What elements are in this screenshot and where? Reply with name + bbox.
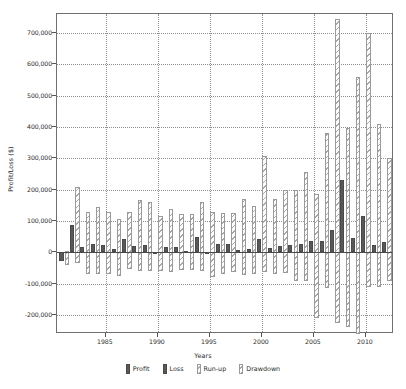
bar-profit[interactable] bbox=[382, 242, 386, 252]
legend-swatch-icon bbox=[197, 364, 201, 374]
y-tick-label: 700,000 bbox=[27, 28, 52, 35]
bar-runup-drawdown[interactable] bbox=[169, 209, 173, 272]
y-axis-title: Profit/Loss ($) bbox=[7, 130, 15, 208]
bar-profit[interactable] bbox=[216, 244, 220, 252]
x-tick-label: 2000 bbox=[253, 338, 269, 345]
legend-label: Profit bbox=[133, 365, 150, 373]
zero-baseline bbox=[57, 252, 392, 253]
gridline-y bbox=[57, 158, 392, 159]
bar-profit[interactable] bbox=[288, 245, 292, 253]
bar-runup-drawdown[interactable] bbox=[346, 128, 350, 327]
x-tick-mark bbox=[365, 333, 366, 337]
y-tick-mark bbox=[52, 189, 56, 190]
bar-runup-drawdown[interactable] bbox=[273, 199, 277, 274]
x-tick-mark bbox=[209, 333, 210, 337]
legend-item-loss[interactable]: Loss bbox=[163, 364, 184, 374]
bar-profit[interactable] bbox=[361, 216, 365, 252]
bar-runup-drawdown[interactable] bbox=[221, 213, 225, 275]
y-tick-mark bbox=[52, 32, 56, 33]
bar-runup-drawdown[interactable] bbox=[387, 158, 391, 281]
y-tick-label: 500,000 bbox=[27, 91, 52, 98]
bar-runup-drawdown[interactable] bbox=[210, 212, 214, 277]
x-tick-label: 2010 bbox=[357, 338, 373, 345]
y-tick-mark bbox=[52, 63, 56, 64]
bar-runup-drawdown[interactable] bbox=[283, 190, 287, 273]
legend-item-drawdown[interactable]: Drawdown bbox=[239, 364, 280, 374]
bar-profit[interactable] bbox=[309, 241, 313, 253]
chart-legend: ProfitLossRun-upDrawdown bbox=[0, 364, 406, 374]
bar-runup-drawdown[interactable] bbox=[356, 77, 360, 334]
legend-label: Run-up bbox=[204, 365, 227, 373]
y-tick-mark bbox=[52, 157, 56, 158]
gridline-x bbox=[158, 14, 159, 332]
bar-runup-drawdown[interactable] bbox=[200, 202, 204, 271]
legend-item-profit[interactable]: Profit bbox=[126, 364, 150, 374]
gridline-x bbox=[210, 14, 211, 332]
bar-runup-drawdown[interactable] bbox=[252, 206, 256, 274]
legend-swatch-icon bbox=[239, 364, 243, 374]
gridline-y bbox=[57, 64, 392, 65]
bar-runup-drawdown[interactable] bbox=[117, 219, 121, 276]
y-tick-label: -100,000 bbox=[25, 279, 52, 286]
bar-runup-drawdown[interactable] bbox=[86, 212, 90, 274]
gridline-y bbox=[57, 33, 392, 34]
bar-profit[interactable] bbox=[330, 230, 334, 252]
y-tick-mark bbox=[52, 126, 56, 127]
y-tick-label: -200,000 bbox=[25, 311, 52, 318]
gridline-y bbox=[57, 127, 392, 128]
x-axis-title: Years bbox=[0, 352, 406, 360]
legend-label: Drawdown bbox=[246, 365, 280, 373]
y-tick-label: 600,000 bbox=[27, 60, 52, 67]
y-tick-label: 200,000 bbox=[27, 185, 52, 192]
bar-profit[interactable] bbox=[372, 245, 376, 253]
bar-runup-drawdown[interactable] bbox=[294, 190, 298, 282]
bar-runup-drawdown[interactable] bbox=[158, 216, 162, 271]
bar-runup-drawdown[interactable] bbox=[262, 156, 266, 272]
plot-area bbox=[56, 13, 393, 333]
bar-profit[interactable] bbox=[122, 239, 126, 252]
bar-runup-drawdown[interactable] bbox=[335, 19, 339, 323]
x-tick-label: 1995 bbox=[201, 338, 217, 345]
bar-profit[interactable] bbox=[91, 244, 95, 252]
bar-runup-drawdown[interactable] bbox=[106, 212, 110, 273]
bar-runup-drawdown[interactable] bbox=[366, 33, 370, 287]
gridline-y bbox=[57, 96, 392, 97]
bar-profit[interactable] bbox=[70, 225, 74, 253]
bar-profit[interactable] bbox=[320, 241, 324, 252]
bar-profit[interactable] bbox=[351, 238, 355, 253]
bar-profit[interactable] bbox=[299, 244, 303, 253]
y-tick-mark bbox=[52, 95, 56, 96]
bar-profit[interactable] bbox=[101, 245, 105, 253]
y-tick-label: 400,000 bbox=[27, 122, 52, 129]
x-tick-mark bbox=[313, 333, 314, 337]
bar-profit[interactable] bbox=[195, 237, 199, 252]
bar-profit[interactable] bbox=[257, 239, 261, 252]
bar-runup-drawdown[interactable] bbox=[127, 212, 131, 269]
bar-runup-drawdown[interactable] bbox=[138, 200, 142, 271]
legend-item-run-up[interactable]: Run-up bbox=[197, 364, 227, 374]
bar-runup-drawdown[interactable] bbox=[148, 202, 152, 271]
gridline-y bbox=[57, 315, 392, 316]
legend-label: Loss bbox=[170, 365, 184, 373]
bar-profit[interactable] bbox=[226, 244, 230, 252]
bar-runup-drawdown[interactable] bbox=[231, 213, 235, 273]
y-tick-mark bbox=[52, 220, 56, 221]
x-tick-label: 1990 bbox=[149, 338, 165, 345]
bar-runup-drawdown[interactable] bbox=[304, 172, 308, 281]
y-tick-mark bbox=[52, 283, 56, 284]
bar-profit[interactable] bbox=[340, 180, 344, 253]
bar-runup-drawdown[interactable] bbox=[190, 214, 194, 270]
bar-profit[interactable] bbox=[143, 245, 147, 253]
chart-container: 700,000600,000500,000400,000300,000200,0… bbox=[0, 0, 406, 389]
gridline-y bbox=[57, 284, 392, 285]
y-tick-label: 100,000 bbox=[27, 217, 52, 224]
bar-runup-drawdown[interactable] bbox=[325, 133, 329, 288]
bar-runup-drawdown[interactable] bbox=[242, 199, 246, 275]
legend-swatch-icon bbox=[163, 364, 167, 374]
bar-runup-drawdown[interactable] bbox=[179, 214, 183, 270]
bar-runup-drawdown[interactable] bbox=[377, 124, 381, 287]
bar-loss[interactable] bbox=[59, 252, 63, 260]
bar-runup-drawdown[interactable] bbox=[96, 207, 100, 275]
bar-runup-drawdown[interactable] bbox=[314, 194, 318, 318]
x-tick-mark bbox=[105, 333, 106, 337]
